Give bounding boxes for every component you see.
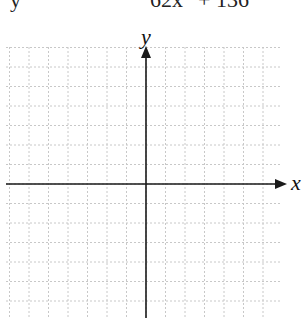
x-axis-arrow-icon xyxy=(275,179,287,189)
coordinate-grid xyxy=(0,0,305,318)
y-axis-label: y xyxy=(141,24,151,50)
x-axis-label: x xyxy=(291,170,301,196)
